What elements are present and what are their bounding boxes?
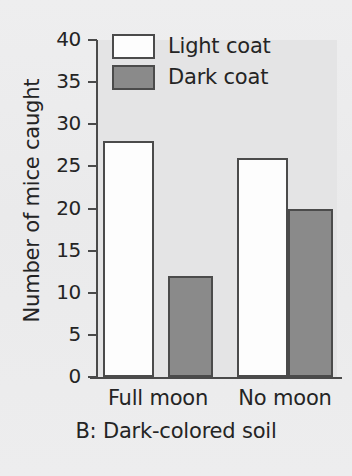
y-tick-label-0: 0: [35, 366, 81, 386]
legend-label-dark-coat: Dark coat: [168, 67, 268, 88]
legend-swatch-dark-coat: [112, 65, 155, 90]
figure-caption: B: Dark-colored soil: [0, 421, 352, 442]
legend-swatch-light-coat: [112, 34, 155, 59]
legend-label-light-coat: Light coat: [168, 36, 271, 57]
y-axis-title: Number of mice caught: [22, 51, 43, 351]
x-label-no-moon: No moon: [205, 388, 352, 409]
bar-no-moon-light-coat: [237, 158, 288, 377]
bar-full-moon-light-coat: [103, 141, 154, 377]
legend-item-dark-coat: Dark coat: [112, 65, 271, 90]
x-axis-line: [90, 377, 342, 379]
bar-chart-figure: 0510152025303540 Light coatDark coat Num…: [0, 0, 352, 476]
legend: Light coatDark coat: [112, 34, 271, 90]
legend-item-light-coat: Light coat: [112, 34, 271, 59]
bars-container: [96, 40, 337, 377]
bar-full-moon-dark-coat: [168, 276, 213, 377]
y-tick-label-40: 40: [35, 29, 81, 49]
bar-no-moon-dark-coat: [288, 209, 333, 378]
